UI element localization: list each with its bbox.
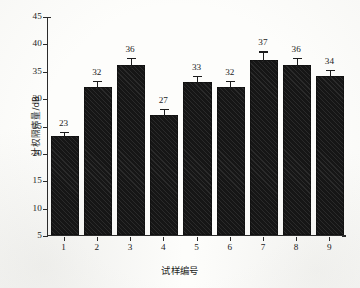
bar bbox=[283, 65, 311, 235]
y-tick-label: 45 bbox=[32, 12, 42, 21]
bar-chart-figure: 计权隔声量/dB 45 40 35 30 25 20 15 10 5 23323… bbox=[0, 0, 360, 288]
bar-value-label: 33 bbox=[192, 63, 201, 72]
bar bbox=[51, 136, 79, 235]
x-tick-mark bbox=[230, 237, 231, 241]
y-axis-top-cap bbox=[47, 17, 51, 18]
error-bar-cap bbox=[293, 58, 302, 59]
bar-value-label: 34 bbox=[325, 57, 334, 66]
y-tick-label: 30 bbox=[32, 94, 42, 103]
x-tick-mark bbox=[197, 237, 198, 241]
bar-value-label: 23 bbox=[59, 119, 68, 128]
y-tick-label: 35 bbox=[32, 67, 42, 76]
x-tick-mark bbox=[64, 237, 65, 241]
x-tick-mark bbox=[263, 237, 264, 241]
bar-value-label: 37 bbox=[258, 38, 267, 47]
x-tick-label: 4 bbox=[161, 243, 166, 252]
x-tick-label: 8 bbox=[294, 243, 299, 252]
bar bbox=[183, 82, 211, 235]
error-bar-cap bbox=[93, 81, 102, 82]
bar-value-label: 32 bbox=[225, 68, 234, 77]
bar bbox=[250, 60, 278, 235]
y-tick-label: 10 bbox=[32, 204, 42, 213]
x-axis-title: 试样编号 bbox=[0, 263, 360, 277]
x-tick-mark bbox=[130, 237, 131, 241]
x-tick-label: 1 bbox=[61, 243, 66, 252]
error-bar-cap bbox=[60, 132, 69, 133]
plot-area bbox=[47, 17, 346, 236]
x-tick-mark bbox=[163, 237, 164, 241]
bar-value-label: 32 bbox=[92, 68, 101, 77]
error-bar-cap bbox=[226, 81, 235, 82]
bar-value-label: 36 bbox=[125, 45, 134, 54]
x-tick-label: 2 bbox=[95, 243, 100, 252]
bar bbox=[150, 115, 178, 235]
bar-value-label: 36 bbox=[292, 45, 301, 54]
y-tick-label: 40 bbox=[32, 40, 42, 49]
bar bbox=[316, 76, 344, 235]
error-bar-cap bbox=[160, 109, 169, 110]
x-tick-label: 7 bbox=[261, 243, 266, 252]
bar bbox=[217, 87, 245, 235]
x-tick-label: 6 bbox=[227, 243, 232, 252]
x-tick-mark bbox=[97, 237, 98, 241]
bar-value-label: 27 bbox=[159, 96, 168, 105]
x-tick-mark bbox=[329, 237, 330, 241]
y-tick-mark bbox=[43, 236, 48, 237]
bar bbox=[117, 65, 145, 235]
y-tick-label: 20 bbox=[32, 149, 42, 158]
error-bar-cap bbox=[127, 58, 136, 59]
error-bar-cap bbox=[326, 70, 335, 71]
y-tick-label: 5 bbox=[37, 231, 42, 240]
y-tick-label: 25 bbox=[32, 122, 42, 131]
x-axis-right-cap bbox=[342, 236, 346, 237]
x-tick-label: 5 bbox=[194, 243, 199, 252]
bar bbox=[84, 87, 112, 235]
x-tick-mark bbox=[296, 237, 297, 241]
x-tick-label: 9 bbox=[327, 243, 332, 252]
y-tick-label: 15 bbox=[32, 177, 42, 186]
error-bar-cap bbox=[259, 51, 268, 52]
x-tick-label: 3 bbox=[128, 243, 133, 252]
error-bar-cap bbox=[193, 76, 202, 77]
